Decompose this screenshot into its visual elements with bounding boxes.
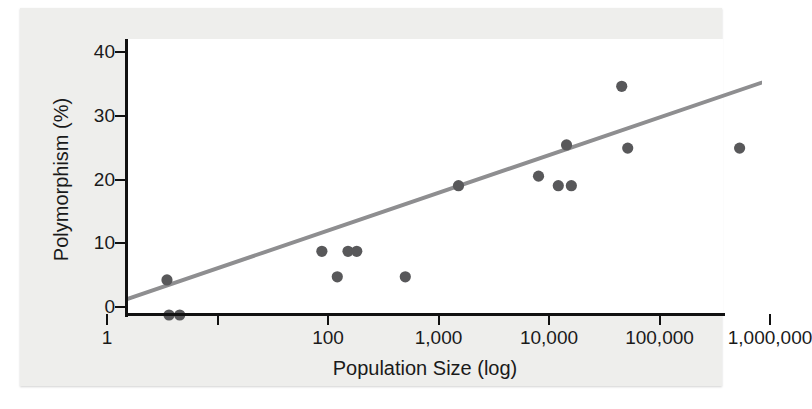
- plot-area: [127, 39, 723, 315]
- y-tick-mark: [115, 242, 126, 244]
- x-tick-mark: [327, 314, 329, 325]
- x-tick-mark: [769, 314, 771, 325]
- x-tick-label: 1,000: [415, 328, 463, 348]
- y-tick-label-wrap: 40: [20, 42, 115, 61]
- y-tick-mark: [115, 51, 126, 53]
- y-tick-label: 20: [69, 170, 115, 189]
- x-tick-label: 1,000,000: [728, 328, 812, 348]
- y-tick-label: 0: [69, 297, 115, 316]
- x-tick-mark: [548, 314, 550, 325]
- y-tick-label: 30: [69, 106, 115, 125]
- chart-panel: 010203040 11001,00010,000100,0001,000,00…: [20, 8, 722, 386]
- y-tick-mark: [115, 115, 126, 117]
- x-axis-line: [125, 313, 725, 316]
- x-tick-mark: [217, 314, 219, 325]
- y-axis-title: Polymorphism (%): [50, 65, 73, 295]
- y-tick-label-wrap: 0: [20, 297, 115, 316]
- x-axis-title: Population Size (log): [127, 357, 723, 380]
- x-tick-mark: [659, 314, 661, 325]
- data-point: [734, 143, 745, 154]
- x-tick-label: 1: [102, 328, 113, 348]
- y-tick-label: 40: [69, 42, 115, 61]
- x-tick-label: 100,000: [625, 328, 694, 348]
- x-tick-mark: [438, 314, 440, 325]
- x-tick-label: 100: [312, 328, 344, 348]
- x-tick-mark: [106, 314, 108, 325]
- y-tick-label: 10: [69, 233, 115, 252]
- x-tick-label: 10,000: [520, 328, 578, 348]
- y-tick-mark: [115, 306, 126, 308]
- y-tick-mark: [115, 179, 126, 181]
